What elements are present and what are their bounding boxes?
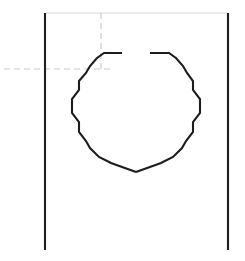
technical-drawing-canvas <box>0 0 245 261</box>
opening-profile-left <box>72 53 136 172</box>
opening-profile-right <box>136 53 200 172</box>
drawing-svg <box>0 0 245 261</box>
